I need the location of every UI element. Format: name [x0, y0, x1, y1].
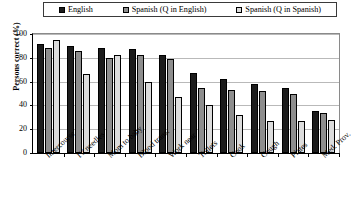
bar-group	[247, 34, 278, 153]
x-axis-labels: IntercourseIV needlesMom to babyBlood tr…	[32, 153, 338, 207]
legend-swatch-english	[59, 7, 65, 13]
legend-entry: Spanish (Q in English)	[123, 6, 207, 14]
bar	[290, 94, 297, 154]
y-tick-label: 40	[5, 101, 27, 109]
legend-label: Spanish (Q in Spanish)	[245, 6, 321, 14]
legend-entry: English	[59, 6, 93, 14]
y-tick-label: 0	[5, 149, 27, 157]
bar	[282, 88, 289, 153]
y-tick-label: 100	[5, 30, 27, 38]
bar	[114, 55, 121, 153]
y-tick-label: 80	[5, 54, 27, 62]
bar-group	[308, 34, 339, 153]
legend-entry: Spanish (Q in Spanish)	[236, 6, 321, 14]
bar	[75, 51, 82, 153]
bar	[167, 59, 174, 153]
bar	[106, 58, 113, 153]
y-tick-label: 20	[5, 125, 27, 133]
bar	[37, 44, 44, 153]
bar-group	[278, 34, 309, 153]
bar	[251, 84, 258, 153]
bar	[220, 79, 227, 153]
bar	[45, 48, 52, 153]
chart-legend: EnglishSpanish (Q in English)Spanish (Q …	[43, 2, 337, 17]
bar	[259, 91, 266, 153]
bar	[312, 111, 319, 153]
legend-swatch-spanish-q-spanish	[236, 7, 242, 13]
bar	[228, 90, 235, 153]
x-tick-mark	[339, 153, 340, 157]
bar	[53, 40, 60, 153]
legend-label: Spanish (Q in English)	[132, 6, 207, 14]
legend-label: English	[68, 6, 93, 14]
bar-group	[217, 34, 248, 153]
bar	[137, 55, 144, 153]
bar-group	[33, 34, 64, 153]
legend-swatch-spanish-q-english	[123, 7, 129, 13]
bar	[198, 88, 205, 153]
y-tick-label: 60	[5, 78, 27, 86]
